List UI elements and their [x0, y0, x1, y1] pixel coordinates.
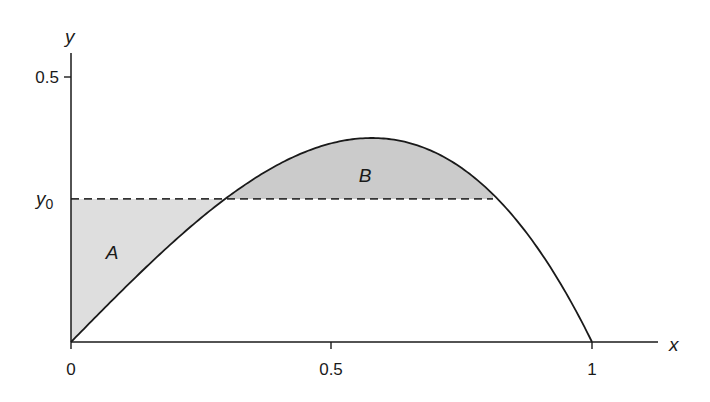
region-b-label: B: [359, 165, 372, 186]
x-axis-label: x: [668, 334, 680, 355]
x-tick-label-0.5: 0.5: [319, 360, 343, 379]
x-tick-label-0: 0: [66, 360, 75, 379]
y-axis-label: y: [63, 26, 76, 47]
x-tick-label-1: 1: [587, 360, 596, 379]
y-tick-label-0.5: 0.5: [35, 68, 59, 87]
chart-canvas: 0 0.5 1 0.5 x y y0 A B: [0, 0, 710, 402]
region-a-fill: [71, 197, 227, 342]
y0-label-sub: 0: [46, 196, 54, 212]
y0-label: y0: [34, 188, 54, 212]
region-a-label: A: [105, 242, 119, 263]
